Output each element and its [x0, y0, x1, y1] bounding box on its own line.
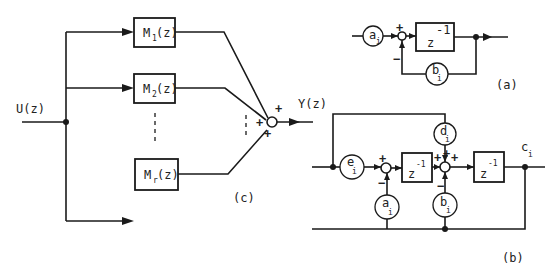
figure-caption-c: (c) [233, 191, 255, 205]
figure-caption-a: (a) [496, 78, 518, 92]
svg-text:i: i [528, 150, 533, 159]
arrow-icon [395, 165, 402, 171]
block-m2: M 2 (z) [134, 74, 178, 103]
svg-text:−: − [393, 52, 400, 66]
svg-text:(z): (z) [156, 82, 178, 96]
svg-text:(z): (z) [157, 168, 179, 182]
figure-c-parallel-realization: U(z) M 1 (z) M 2 (z) M r (z) [16, 18, 327, 225]
arrow-icon [483, 33, 492, 41]
block-mr: M r (z) [135, 159, 179, 190]
svg-text:+: + [264, 127, 271, 141]
figure-b-second-order-section: e i + − z -1 + + + − d i [312, 114, 545, 265]
figure-a-first-order-section: a i + − z -1 b i (a) [352, 21, 518, 92]
summing-junction [267, 117, 277, 127]
output-label: Y(z) [298, 97, 327, 111]
svg-text:+: + [256, 116, 263, 130]
svg-text:i: i [445, 135, 450, 144]
svg-text:M: M [143, 26, 150, 40]
svg-text:+: + [275, 102, 282, 116]
input-label: U(z) [16, 102, 45, 116]
svg-text:-1: -1 [416, 160, 426, 169]
svg-text:z: z [427, 36, 434, 50]
svg-text:(z): (z) [156, 26, 178, 40]
svg-text:z: z [480, 167, 487, 181]
svg-text:z: z [408, 167, 415, 181]
arrow-icon [122, 217, 134, 225]
mr-output-line [178, 130, 267, 174]
svg-text:+: + [379, 152, 386, 166]
delay-block-1: z -1 [402, 153, 432, 182]
delay-block: z -1 [416, 23, 454, 51]
m1-output-line [175, 32, 268, 118]
svg-text:+: + [451, 151, 458, 165]
arrow-icon [442, 172, 448, 179]
arrow-icon [409, 33, 416, 39]
svg-text:−: − [437, 179, 444, 193]
svg-text:i: i [388, 208, 393, 217]
arrow-icon [467, 164, 474, 170]
arrow-icon [399, 41, 405, 48]
svg-text:+: + [434, 151, 441, 165]
svg-text:−: − [378, 176, 385, 190]
svg-text:-1: -1 [488, 159, 498, 168]
svg-text:i: i [376, 37, 381, 46]
block-diagram: U(z) M 1 (z) M 2 (z) M r (z) [0, 0, 557, 280]
block-m1: M 1 (z) [134, 18, 178, 47]
svg-text:i: i [437, 74, 442, 83]
arrow-icon [289, 118, 300, 126]
svg-text:i: i [446, 206, 451, 215]
arrow-icon [122, 28, 134, 36]
figure-caption-b: (b) [502, 251, 524, 265]
svg-text:+: + [396, 21, 403, 35]
summing-junction [440, 162, 450, 172]
m2-output-line [175, 88, 266, 120]
svg-text:M: M [143, 82, 150, 96]
delay-block-2: z -1 [474, 152, 504, 182]
svg-text:M: M [144, 168, 151, 182]
arrow-icon [122, 84, 134, 92]
svg-text:i: i [352, 167, 357, 176]
svg-text:-1: -1 [436, 23, 450, 37]
